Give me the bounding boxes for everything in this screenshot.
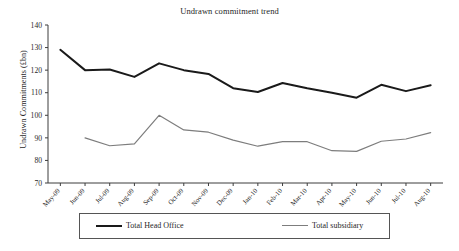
y-tick-label: 130 (31, 43, 43, 52)
x-tick-label: Nov-09 (190, 187, 210, 208)
y-tick-label: 70 (34, 179, 42, 188)
x-tick-label: Sep-09 (142, 187, 161, 207)
x-tick-label: Dec-09 (215, 187, 234, 207)
x-tick-label: May-09 (41, 187, 61, 208)
x-tick-label: Feb-10 (265, 187, 284, 207)
series-line-total-subsidiary (85, 115, 431, 151)
x-tick-label: Jul-10 (390, 187, 407, 205)
legend-swatch-icon-head-office (96, 225, 122, 227)
y-axis-ticks: 708090100110120130140 (31, 21, 48, 188)
chart-legend: Total Head Office Total subsidiary (79, 213, 390, 239)
x-tick-label: Jul-09 (94, 187, 111, 205)
x-tick-label: Aug-10 (412, 187, 432, 208)
legend-swatch-icon-subsidiary (282, 225, 308, 226)
x-tick-label: May-10 (338, 187, 358, 208)
y-tick-label: 110 (31, 88, 42, 97)
x-tick-label: Aug-09 (116, 187, 136, 208)
x-tick-label: Mar-10 (289, 187, 308, 207)
chart-container: Undrawn commitment trend Undrawn Commitm… (0, 0, 459, 251)
y-tick-label: 80 (34, 156, 42, 165)
x-tick-label: Jun-10 (364, 187, 382, 206)
legend-item-total-head-office: Total Head Office (96, 221, 184, 230)
y-tick-label: 100 (31, 111, 43, 120)
x-tick-label: Jun-09 (68, 187, 86, 206)
series-line-total-head-office (60, 50, 430, 98)
legend-label-subsidiary: Total subsidiary (312, 221, 363, 230)
y-tick-label: 120 (31, 66, 43, 75)
y-tick-label: 90 (34, 134, 42, 143)
x-tick-label: Jan-10 (241, 187, 259, 206)
chart-axes (48, 25, 443, 183)
x-tick-label: Apr-10 (314, 187, 333, 207)
y-tick-label: 140 (31, 21, 43, 30)
legend-label-head-office: Total Head Office (126, 221, 184, 230)
legend-item-total-subsidiary: Total subsidiary (282, 221, 363, 230)
chart-series-lines (60, 50, 430, 152)
x-axis-ticks: May-09Jun-09Jul-09Aug-09Sep-09Oct-09Nov-… (41, 183, 431, 208)
x-tick-label: Oct-09 (167, 187, 185, 206)
